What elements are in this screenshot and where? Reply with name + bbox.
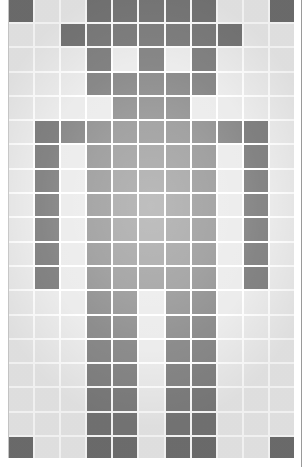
empty-tile [9,145,33,167]
filled-tile [192,121,216,143]
filled-tile [113,73,137,95]
filled-tile [35,218,59,240]
filled-tile [166,437,190,458]
empty-tile [61,0,85,22]
filled-tile [270,0,294,22]
empty-tile [9,218,33,240]
empty-tile [139,291,163,313]
filled-tile [139,194,163,216]
empty-tile [61,48,85,70]
empty-tile [9,97,33,119]
empty-tile [61,340,85,362]
filled-tile [192,145,216,167]
empty-tile [244,291,268,313]
empty-tile [35,316,59,338]
filled-tile [35,243,59,265]
filled-tile [139,24,163,46]
empty-tile [244,388,268,410]
empty-tile [218,0,242,22]
filled-tile [218,121,242,143]
filled-tile [166,170,190,192]
empty-tile [218,97,242,119]
empty-tile [244,364,268,386]
filled-tile [113,0,137,22]
empty-tile [244,97,268,119]
empty-tile [35,24,59,46]
empty-tile [139,364,163,386]
empty-tile [9,413,33,435]
empty-tile [270,267,294,289]
filled-tile [166,291,190,313]
empty-tile [9,243,33,265]
filled-tile [35,194,59,216]
filled-tile [113,340,137,362]
filled-tile [244,145,268,167]
empty-tile [218,243,242,265]
empty-tile [218,388,242,410]
filled-tile [244,194,268,216]
filled-tile [166,218,190,240]
filled-tile [87,24,111,46]
empty-tile [9,24,33,46]
filled-tile [192,170,216,192]
empty-tile [244,0,268,22]
filled-tile [139,121,163,143]
empty-tile [218,340,242,362]
filled-tile [166,316,190,338]
filled-tile [192,267,216,289]
filled-tile [139,48,163,70]
empty-tile [9,388,33,410]
empty-tile [218,413,242,435]
filled-tile [87,413,111,435]
filled-tile [192,413,216,435]
filled-tile [113,218,137,240]
empty-tile [61,145,85,167]
filled-tile [113,243,137,265]
empty-tile [270,48,294,70]
empty-tile [61,97,85,119]
empty-tile [35,340,59,362]
filled-tile [244,267,268,289]
empty-tile [270,24,294,46]
empty-tile [139,340,163,362]
filled-tile [244,170,268,192]
filled-tile [139,218,163,240]
filled-tile [9,437,33,458]
filled-tile [113,437,137,458]
filled-tile [244,218,268,240]
empty-tile [35,437,59,458]
empty-tile [218,48,242,70]
empty-tile [218,73,242,95]
filled-tile [192,291,216,313]
empty-tile [270,291,294,313]
filled-tile [139,267,163,289]
filled-tile [113,388,137,410]
filled-tile [87,267,111,289]
empty-tile [218,218,242,240]
filled-tile [192,388,216,410]
filled-tile [87,194,111,216]
filled-tile [113,267,137,289]
filled-tile [87,316,111,338]
empty-tile [218,170,242,192]
pixel-grid [8,0,294,458]
filled-tile [166,145,190,167]
empty-tile [270,388,294,410]
filled-tile [87,145,111,167]
filled-tile [166,340,190,362]
empty-tile [61,316,85,338]
empty-tile [61,243,85,265]
empty-tile [244,24,268,46]
empty-tile [270,170,294,192]
empty-tile [270,97,294,119]
filled-tile [270,437,294,458]
filled-tile [192,73,216,95]
filled-tile [166,97,190,119]
filled-tile [192,24,216,46]
empty-tile [270,364,294,386]
empty-tile [35,73,59,95]
filled-tile [113,24,137,46]
filled-tile [113,316,137,338]
filled-tile [192,316,216,338]
empty-tile [244,48,268,70]
